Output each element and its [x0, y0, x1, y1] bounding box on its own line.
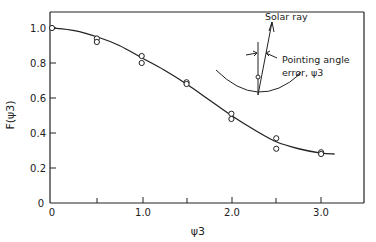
- svg-text:0: 0: [38, 198, 44, 209]
- x-ticks: [97, 197, 321, 203]
- data-point: [229, 116, 234, 121]
- focus-marker: [256, 75, 260, 79]
- data-point: [184, 81, 189, 86]
- svg-text:2.0: 2.0: [224, 207, 240, 218]
- svg-text:0.8: 0.8: [30, 58, 46, 69]
- svg-text:0.4: 0.4: [30, 128, 46, 139]
- data-point: [229, 111, 234, 116]
- pointing-error-label-1: Pointing angle: [282, 54, 350, 65]
- pointing-error-label-2: error, ψ3: [282, 67, 323, 78]
- fitted-curve: [52, 28, 335, 154]
- svg-text:3.0: 3.0: [313, 207, 329, 218]
- x-axis-label: ψ3: [191, 225, 205, 238]
- chart: 0 0.2 0.4 0.6 0.8 1.0 0 1.0 2.0 3.0 ψ3 F…: [0, 0, 376, 242]
- svg-text:1.0: 1.0: [30, 23, 46, 34]
- data-point: [49, 25, 54, 30]
- y-ticks: [50, 28, 56, 168]
- svg-text:1.0: 1.0: [135, 207, 151, 218]
- data-point: [139, 60, 144, 65]
- angle-arrow-right-icon: [266, 53, 277, 58]
- data-point: [319, 151, 324, 156]
- data-point: [274, 136, 279, 141]
- svg-text:0.2: 0.2: [30, 163, 46, 174]
- data-point: [94, 39, 99, 44]
- y-tick-labels: 0 0.2 0.4 0.6 0.8 1.0: [30, 23, 46, 209]
- data-point: [274, 146, 279, 151]
- svg-text:0: 0: [49, 207, 55, 218]
- svg-text:0.6: 0.6: [30, 93, 46, 104]
- solar-ray-line: [258, 22, 272, 95]
- solar-ray-label: Solar ray: [265, 11, 308, 22]
- data-point: [139, 53, 144, 58]
- y-axis-label: F(ψ3): [4, 100, 17, 129]
- data-points: [49, 25, 323, 156]
- x-tick-labels: 0 1.0 2.0 3.0: [49, 207, 329, 218]
